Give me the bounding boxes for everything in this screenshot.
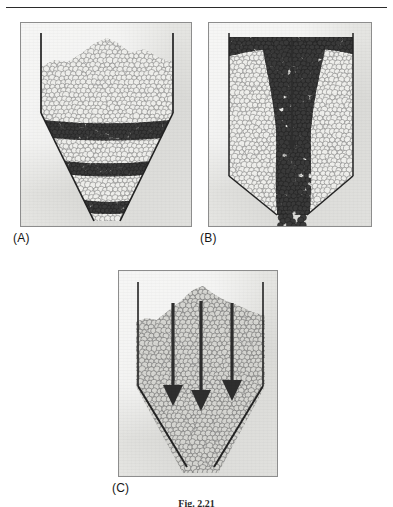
figure-panel-a	[20, 22, 192, 227]
panel-c-illustration	[119, 271, 278, 477]
panel-b-label: (B)	[200, 231, 217, 245]
panel-a-illustration	[21, 23, 192, 227]
panel-a-label: (A)	[13, 231, 30, 245]
panel-b-illustration	[209, 23, 372, 227]
panel-c-label: (C)	[112, 481, 129, 495]
page-top-rule	[6, 7, 387, 8]
figure-caption: Fig. 2.21	[0, 498, 393, 507]
figure-panel-b	[208, 22, 372, 227]
figure-panel-c	[118, 270, 278, 477]
